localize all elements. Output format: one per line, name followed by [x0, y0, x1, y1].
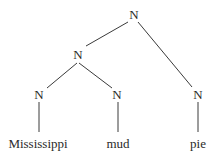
tree-diagram: N N N N N Mississippi mud pie [0, 0, 221, 160]
node-inner: N [73, 47, 83, 62]
node-mississippi: N [34, 87, 44, 102]
leaf-mud: mud [106, 136, 130, 151]
leaf-mississippi: Mississippi [8, 136, 68, 151]
leaf-pie: pie [190, 136, 206, 151]
edge-root-to-inner [86, 22, 128, 46]
node-pie: N [193, 87, 203, 102]
node-root: N [129, 7, 139, 22]
edge-root-to-pie [138, 22, 192, 87]
edge-inner-to-mud [79, 63, 112, 88]
edge-inner-to-mississippi [47, 63, 77, 88]
node-mud: N [112, 87, 122, 102]
